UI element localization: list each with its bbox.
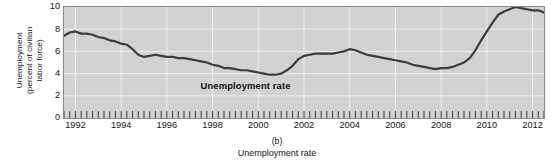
x-tick-label: 1992 (65, 121, 85, 130)
panel-label: (b) (0, 136, 554, 146)
y-tick-label: 2 (55, 91, 60, 100)
x-tick-label: 2006 (385, 121, 405, 130)
x-axis-minor-ticks (64, 111, 544, 118)
x-tick-label: 2004 (339, 121, 359, 130)
y-tick-label: 10 (50, 2, 60, 11)
y-tick-label: 4 (55, 69, 60, 78)
x-tick-label: 1994 (111, 121, 131, 130)
line-chart-svg (64, 7, 544, 118)
x-tick-label: 2000 (248, 121, 268, 130)
x-tick-label: 2008 (431, 121, 451, 130)
x-tick-label: 2010 (477, 121, 497, 130)
unemployment-rate-figure: Unemployment (percent of civilian labor … (0, 0, 554, 164)
y-tick-label: 6 (55, 47, 60, 56)
y-tick-label: 0 (55, 113, 60, 122)
x-tick-label: 2012 (522, 121, 542, 130)
x-tick-label: 1998 (202, 121, 222, 130)
y-axis-label-line-2: (percent of civilian (26, 26, 36, 93)
x-axis-tick-labels: 1992199419961998200020022004200620082010… (63, 121, 545, 137)
x-tick-label: 2002 (294, 121, 314, 130)
y-axis-tick-labels: 0246810 (38, 0, 60, 120)
figure-caption: Unemployment rate (0, 148, 554, 158)
plot-area: Unemployment rate (63, 6, 545, 119)
series-annotation-unemployment-rate: Unemployment rate (201, 80, 291, 91)
gridlines (64, 7, 544, 118)
y-axis-label-line-1: Unemployment (16, 26, 26, 93)
x-tick-label: 1996 (157, 121, 177, 130)
y-tick-label: 8 (55, 25, 60, 34)
